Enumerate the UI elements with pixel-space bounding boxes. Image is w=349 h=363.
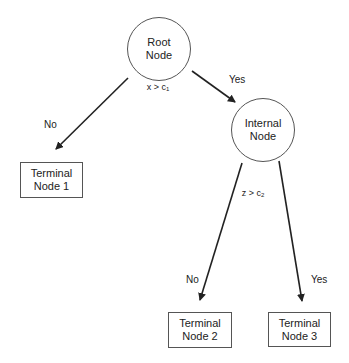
edge-internal-terminal3 [279, 161, 302, 301]
terminal-node-1: Terminal Node 1 [20, 162, 83, 198]
edge-label-yes-2: Yes [311, 274, 327, 285]
edge-label-yes-1: Yes [229, 74, 245, 85]
edge-root-terminal1 [56, 78, 128, 149]
edge-label-no-2: No [186, 274, 199, 285]
root-node-line2: Node [146, 49, 172, 62]
terminal-node-3: Terminal Node 3 [268, 312, 331, 347]
internal-node: Internal Node [231, 98, 295, 162]
root-node-line1: Root [146, 36, 172, 49]
internal-node-line2: Node [245, 130, 282, 143]
root-node: Root Node [127, 17, 191, 81]
edge-internal-terminal2 [200, 163, 242, 300]
edge-label-no-1: No [44, 119, 57, 130]
internal-node-line1: Internal [245, 117, 282, 130]
terminal-node-2: Terminal Node 2 [168, 312, 232, 348]
internal-split-condition: z > c2 [242, 188, 265, 198]
root-split-condition: x > c1 [147, 82, 170, 92]
